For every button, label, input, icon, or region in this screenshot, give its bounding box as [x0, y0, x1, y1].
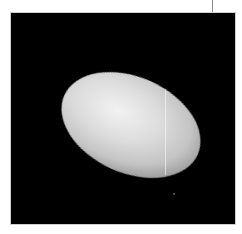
image-canvas	[0, 0, 242, 234]
star-point	[173, 193, 175, 195]
scan-artifact-line	[165, 89, 166, 175]
moon-body	[45, 51, 217, 198]
space-photo	[11, 13, 235, 224]
divider-line	[212, 0, 213, 14]
